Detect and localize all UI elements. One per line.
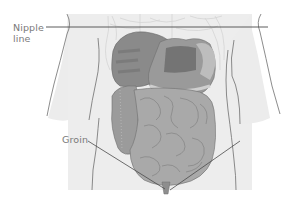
nipple-label-line2: line [13,33,47,44]
stomach [148,38,215,96]
nipple-label-line1: Nipple [13,22,47,33]
groin-label: Groin [62,134,88,145]
nipple-line-label: Nipple line [13,22,47,44]
